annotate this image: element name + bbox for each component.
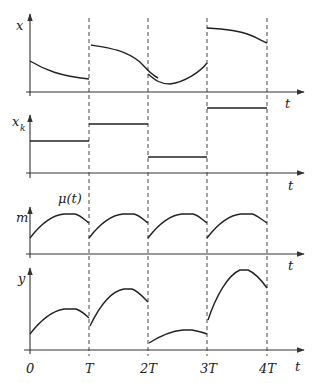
m-time-label: t: [288, 258, 294, 273]
tick-label-3T: 3T: [200, 361, 218, 376]
mu-arch-1: [30, 214, 89, 238]
period-separators: [89, 18, 267, 356]
panel-xk: x k t: [12, 108, 304, 193]
time-tick-labels: 0 T 2T 3T 4T t: [26, 359, 301, 376]
mu-arch-4: [207, 214, 267, 238]
m-axis-label: m: [16, 210, 28, 225]
timing-diagram: x t x k t m t μ(t) y: [0, 0, 319, 383]
panel-y: y: [17, 268, 304, 354]
y-arch-2: [90, 289, 148, 326]
tick-label-4T: 4T: [258, 361, 277, 376]
y-arch-3: [149, 330, 207, 343]
xk-axis-subscript: k: [20, 123, 25, 133]
x-curve-segment-4: [207, 28, 267, 43]
x-time-label: t: [285, 96, 291, 111]
panel-m: m t μ(t): [16, 191, 304, 273]
tick-label-0: 0: [26, 361, 34, 376]
panel-x: x t: [16, 14, 304, 111]
mu-curve-label: μ(t): [58, 191, 82, 206]
y-axis-label: y: [17, 271, 26, 286]
y-arch-1: [30, 309, 89, 334]
x-curve-segment-3: [148, 63, 207, 84]
tick-label-T: T: [85, 361, 95, 376]
xk-time-label: t: [288, 178, 294, 193]
y-arch-4: [208, 270, 267, 320]
time-axis-label: t: [295, 359, 301, 374]
mu-arch-3: [148, 214, 207, 238]
mu-arch-2: [89, 214, 148, 238]
xk-axis-label: x: [12, 114, 20, 129]
x-curve-segment-1: [30, 61, 89, 79]
x-axis-label: x: [16, 18, 24, 33]
tick-label-2T: 2T: [139, 361, 158, 376]
